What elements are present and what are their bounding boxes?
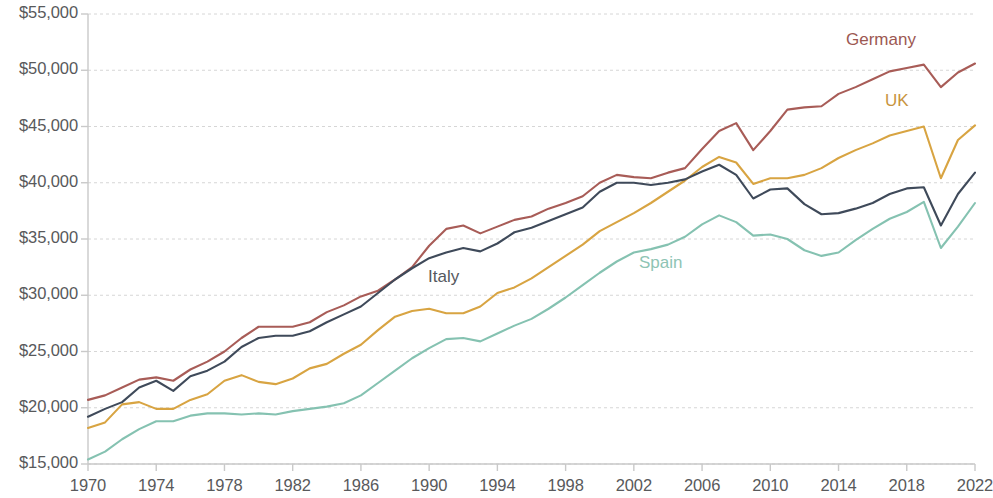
- x-axis-tick-label: 1982: [258, 476, 328, 495]
- series-line-spain: [88, 202, 975, 460]
- gridlines: [88, 14, 975, 464]
- x-axis-tick-label: 2018: [872, 476, 942, 495]
- y-axis-tick-label: $45,000: [0, 116, 78, 135]
- y-axis-tick-label: $55,000: [0, 3, 78, 22]
- series-label-italy: Italy: [428, 267, 459, 287]
- x-axis-tick-label: 2006: [667, 476, 737, 495]
- x-axis-ticks: [88, 464, 975, 471]
- x-axis-tick-label: 1990: [394, 476, 464, 495]
- y-axis-tick-label: $15,000: [0, 453, 78, 472]
- series-label-spain: Spain: [639, 253, 682, 273]
- y-axis-tick-label: $35,000: [0, 228, 78, 247]
- x-axis-tick-label: 2014: [804, 476, 874, 495]
- series-line-italy: [88, 165, 975, 417]
- x-axis-tick-label: 2002: [599, 476, 669, 495]
- x-axis-tick-label: 1994: [462, 476, 532, 495]
- chart-plot-area: [0, 0, 993, 498]
- y-axis-tick-label: $20,000: [0, 397, 78, 416]
- x-axis-tick-label: 1974: [121, 476, 191, 495]
- y-axis-tick-label: $40,000: [0, 172, 78, 191]
- y-axis-tick-label: $25,000: [0, 341, 78, 360]
- x-axis-tick-label: 2010: [735, 476, 805, 495]
- series-line-uk: [88, 125, 975, 428]
- line-chart: $55,000$50,000$45,000$40,000$35,000$30,0…: [0, 0, 993, 498]
- y-axis-ticks: [81, 14, 88, 464]
- x-axis-tick-label: 1978: [189, 476, 259, 495]
- y-axis-tick-label: $50,000: [0, 59, 78, 78]
- series-label-uk: UK: [885, 91, 909, 111]
- series-line-germany: [88, 64, 975, 400]
- x-axis-tick-label: 2022: [940, 476, 993, 495]
- series-label-germany: Germany: [846, 30, 916, 50]
- y-axis-tick-label: $30,000: [0, 284, 78, 303]
- x-axis-tick-label: 1970: [53, 476, 123, 495]
- data-series-lines: [88, 64, 975, 460]
- x-axis-tick-label: 1986: [326, 476, 396, 495]
- x-axis-tick-label: 1998: [531, 476, 601, 495]
